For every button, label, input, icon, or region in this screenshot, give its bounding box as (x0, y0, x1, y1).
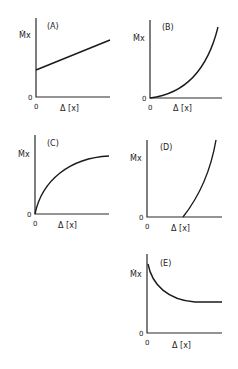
panel-e: (E) Ṁx 0 0 Δ [x] (130, 254, 222, 350)
panel-label-a: (A) (47, 22, 59, 31)
y-origin-e: 0 (139, 330, 143, 338)
chart-figure: (A) Ṁx 0 0 Δ [x] (B) Ṁx 0 0 Δ [x] (C) Ṁx… (0, 0, 238, 369)
y-axis-label-b: Ṁx (133, 33, 145, 43)
panel-d: (D) Ṁx 0 0 Δ [x] (130, 140, 222, 233)
panel-c: (C) Ṁx 0 0 Δ [x] (18, 135, 109, 230)
x-axis-label-a: Δ [x] (60, 104, 79, 113)
x-origin-b: 0 (148, 104, 152, 112)
panel-label-e: (E) (160, 259, 171, 268)
panel-label-b: (B) (162, 23, 174, 32)
x-axis-label-c: Δ [x] (58, 221, 77, 230)
axes-d (147, 140, 222, 217)
axes-b (150, 20, 222, 98)
x-origin-d: 0 (145, 223, 149, 231)
y-origin-c: 0 (27, 211, 31, 219)
y-origin-d: 0 (139, 214, 143, 222)
x-axis-label-d: Δ [x] (171, 224, 190, 233)
y-axis-label-d: Ṁx (130, 153, 142, 163)
axes-e (147, 254, 222, 333)
x-origin-a: 0 (34, 103, 38, 111)
y-axis-label-c: Ṁx (18, 149, 30, 159)
x-axis-label-e: Δ [x] (172, 341, 191, 350)
x-origin-c: 0 (33, 220, 37, 228)
x-origin-e: 0 (145, 339, 149, 347)
curve-e (148, 264, 222, 302)
x-axis-label-b: Δ [x] (173, 104, 192, 113)
curve-c (35, 156, 109, 214)
y-origin-b: 0 (142, 95, 146, 103)
curve-a (36, 40, 110, 70)
y-origin-a: 0 (28, 94, 32, 102)
y-axis-label-a: Ṁx (19, 30, 31, 40)
curve-d (183, 140, 216, 217)
curve-b (150, 27, 218, 98)
panel-a: (A) Ṁx 0 0 Δ [x] (19, 18, 110, 113)
panel-label-c: (C) (47, 139, 59, 148)
panel-b: (B) Ṁx 0 0 Δ [x] (133, 20, 222, 113)
y-axis-label-e: Ṁx (130, 269, 142, 279)
panel-label-d: (D) (160, 143, 172, 152)
